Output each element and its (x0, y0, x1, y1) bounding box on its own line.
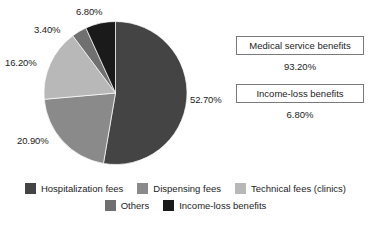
legend-item-dispensing-fees: Dispensing fees (137, 183, 221, 194)
summary-box-medical-service-benefits: Medical service benefits (236, 36, 364, 55)
legend-label-technical-fees-clinics: Technical fees (clinics) (251, 183, 346, 194)
pie-slice-hospitalization-fees (103, 22, 187, 165)
summary-block-income-loss-benefits: Income-loss benefits 6.80% (236, 84, 364, 120)
pie-slice-group (44, 22, 187, 165)
pie-slice-dispensing-fees (44, 93, 115, 163)
pie-label-income-loss-benefits: 6.80% (76, 6, 102, 17)
legend-row: OthersIncome-loss benefits (0, 197, 371, 214)
legend-label-hospitalization-fees: Hospitalization fees (41, 183, 123, 194)
legend-item-hospitalization-fees: Hospitalization fees (25, 183, 123, 194)
pie-label-dispensing-fees: 20.90% (17, 135, 49, 146)
legend-swatch-income-loss-benefits (163, 200, 174, 211)
legend-label-others: Others (121, 200, 150, 211)
legend-swatch-technical-fees-clinics (235, 183, 246, 194)
pie-svg (44, 21, 187, 165)
legend-item-others: Others (105, 200, 150, 211)
summary-value-medical-service-benefits: 93.20% (236, 61, 364, 72)
legend-swatch-others (105, 200, 116, 211)
legend-row: Hospitalization feesDispensing feesTechn… (0, 180, 371, 197)
summary-value-income-loss-benefits: 6.80% (236, 109, 364, 120)
legend-swatch-hospitalization-fees (25, 183, 36, 194)
summary-block-medical-service-benefits: Medical service benefits 93.20% (236, 36, 364, 72)
legend-item-income-loss-benefits: Income-loss benefits (163, 200, 266, 211)
legend-label-dispensing-fees: Dispensing fees (153, 183, 221, 194)
pie-label-others: 3.40% (34, 24, 60, 35)
summary-title-medical-service-benefits: Medical service benefits (249, 40, 350, 51)
pie-chart-figure: 52.70% 20.90% 16.20% 3.40% 6.80% Medical… (0, 0, 371, 227)
legend-label-income-loss-benefits: Income-loss benefits (179, 200, 266, 211)
pie-label-hospitalization-fees: 52.70% (190, 94, 222, 105)
summary-title-income-loss-benefits: Income-loss benefits (256, 88, 343, 99)
pie-chart (44, 21, 187, 165)
legend: Hospitalization feesDispensing feesTechn… (0, 180, 371, 214)
summary-panel: Medical service benefits 93.20% Income-l… (236, 36, 364, 120)
summary-box-income-loss-benefits: Income-loss benefits (236, 84, 364, 103)
pie-label-technical-fees: 16.20% (5, 57, 37, 68)
legend-swatch-dispensing-fees (137, 183, 148, 194)
legend-item-technical-fees-clinics: Technical fees (clinics) (235, 183, 346, 194)
